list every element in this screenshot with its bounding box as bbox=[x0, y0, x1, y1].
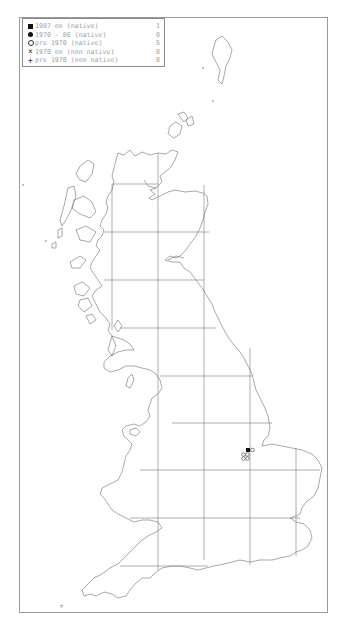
legend-label: 1970 on (non native) bbox=[35, 48, 148, 57]
grid-lines bbox=[104, 153, 320, 570]
record-pre1970-native bbox=[242, 453, 246, 457]
legend-label: pre 1970 (native) bbox=[35, 39, 148, 48]
legend-count: 5 bbox=[148, 39, 160, 48]
legend-count: 0 bbox=[148, 31, 160, 40]
legend-row-1970-86-native: 1970 - 86 (native) 0 bbox=[27, 31, 160, 40]
record-pre1970-native bbox=[246, 457, 250, 461]
legend-row-pre1970-non-native: + pre 1970 (non native) 0 bbox=[27, 56, 160, 65]
cross-icon: × bbox=[27, 48, 34, 56]
filled-square-icon bbox=[27, 24, 34, 29]
filled-circle-icon bbox=[27, 32, 34, 37]
legend-count: 1 bbox=[148, 22, 160, 31]
record-pre1970-native bbox=[246, 453, 250, 457]
open-circle-icon bbox=[27, 40, 34, 46]
record-1987-native bbox=[246, 448, 250, 452]
legend-label: 1970 - 86 (native) bbox=[35, 31, 148, 40]
record-pre1970-native bbox=[251, 448, 255, 452]
legend-label: 1987 on (native) bbox=[35, 22, 148, 31]
legend-count: 0 bbox=[148, 56, 160, 65]
legend-label: pre 1970 (non native) bbox=[35, 56, 148, 65]
coastline bbox=[22, 36, 322, 608]
map-legend: 1987 on (native) 1 1970 - 86 (native) 0 … bbox=[22, 18, 165, 67]
legend-row-1970-non-native: × 1970 on (non native) 0 bbox=[27, 48, 160, 57]
distribution-map bbox=[0, 0, 343, 625]
record-points bbox=[242, 448, 255, 460]
legend-row-pre1970-native: pre 1970 (native) 5 bbox=[27, 39, 160, 48]
record-pre1970-native bbox=[242, 457, 246, 461]
plus-icon: + bbox=[27, 57, 34, 65]
legend-row-1987-native: 1987 on (native) 1 bbox=[27, 22, 160, 31]
legend-count: 0 bbox=[148, 48, 160, 57]
